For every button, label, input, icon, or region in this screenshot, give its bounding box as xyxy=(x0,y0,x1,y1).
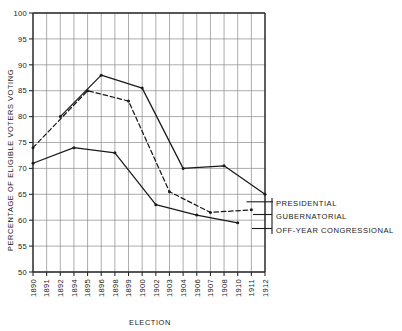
data-point xyxy=(86,89,89,92)
x-tick-label: 1895 xyxy=(83,279,92,297)
x-tick-label: 1911 xyxy=(247,279,256,297)
x-tick-label: 1903 xyxy=(165,279,174,297)
data-point xyxy=(250,208,253,211)
legend-label-1: GUBERNATORIAL xyxy=(276,212,347,221)
data-point xyxy=(168,190,171,193)
data-point xyxy=(195,214,198,217)
data-series-layer xyxy=(32,74,267,225)
y-tick-label: 90 xyxy=(18,61,27,70)
y-tick-label: 55 xyxy=(18,242,27,251)
x-tick-label: 1902 xyxy=(152,279,161,297)
x-tick-label: 1891 xyxy=(42,279,51,297)
y-axis-label: PERCENTAGE OF ELIGIBLE VOTERS VOTING xyxy=(6,69,15,251)
y-tick-label: 80 xyxy=(18,112,27,121)
series-line-2 xyxy=(33,148,238,223)
x-tick-label: 1894 xyxy=(70,279,79,297)
data-point xyxy=(182,167,185,170)
x-tick-label: 1906 xyxy=(193,279,202,297)
data-point xyxy=(264,193,267,196)
x-axis-label: ELECTION xyxy=(129,318,171,327)
y-tick-label: 75 xyxy=(18,138,27,147)
x-tick-label: 1900 xyxy=(138,279,147,297)
y-tick-label: 65 xyxy=(18,190,27,199)
data-point xyxy=(72,146,75,149)
x-tick-label: 1896 xyxy=(97,279,106,297)
data-point xyxy=(100,74,103,77)
chart-legend: PRESIDENTIALGUBERNATORIALOFF-YEAR CONGRE… xyxy=(247,198,394,235)
y-axis-ticks: 50556065707580859095100 xyxy=(13,9,33,277)
data-point xyxy=(154,203,157,206)
y-tick-label: 50 xyxy=(18,268,27,277)
data-point xyxy=(236,221,239,224)
voter-turnout-line-chart: 50556065707580859095100 1890189118921894… xyxy=(0,0,402,331)
x-tick-label: 1904 xyxy=(179,279,188,297)
x-axis-ticks: 1890189118921894189518961898189919001902… xyxy=(29,272,270,297)
y-tick-label: 70 xyxy=(18,164,27,173)
data-point xyxy=(127,100,130,103)
x-tick-label: 1892 xyxy=(56,279,65,297)
grid-layer xyxy=(33,13,265,272)
chart-figure: 50556065707580859095100 1890189118921894… xyxy=(0,0,402,331)
x-tick-label: 1899 xyxy=(124,279,133,297)
data-point xyxy=(32,162,35,165)
data-point xyxy=(141,87,144,90)
x-tick-label: 1910 xyxy=(234,279,243,297)
y-tick-label: 95 xyxy=(18,35,27,44)
y-tick-label: 85 xyxy=(18,86,27,95)
data-point xyxy=(32,146,35,149)
data-point xyxy=(209,211,212,214)
legend-label-0: PRESIDENTIAL xyxy=(276,199,337,208)
data-point xyxy=(223,164,226,167)
x-tick-label: 1907 xyxy=(206,279,215,297)
y-tick-label: 60 xyxy=(18,216,27,225)
data-point xyxy=(113,151,116,154)
legend-label-2: OFF-YEAR CONGRESSIONAL xyxy=(276,226,394,235)
x-tick-label: 1912 xyxy=(261,279,270,297)
y-tick-label: 100 xyxy=(13,9,27,18)
x-tick-label: 1898 xyxy=(111,279,120,297)
x-tick-label: 1908 xyxy=(220,279,229,297)
x-tick-label: 1890 xyxy=(29,279,38,297)
